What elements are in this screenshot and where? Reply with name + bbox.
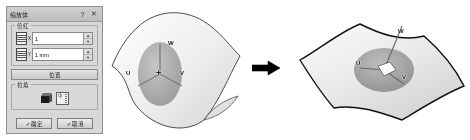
axis-label-v: V <box>180 70 184 76</box>
cancel-button-label: 取消 <box>72 120 84 128</box>
axis-label-u: U <box>356 60 360 66</box>
right-arrow-icon <box>252 60 282 80</box>
screenshot-root: 缩放体 ? ✕ 倍红 X 1 ▲ ▼ <box>0 0 470 140</box>
wavy-surface-before: W U V + <box>108 4 248 136</box>
origin-crosshair-icon: + <box>156 68 161 78</box>
scale-field-sub-y: Y <box>28 52 31 57</box>
cube-icon[interactable] <box>41 93 53 104</box>
ok-check-icon: ✔ <box>26 121 30 127</box>
scale-stepper-buttons-x[interactable]: ▲ ▼ <box>83 33 92 44</box>
scale-stepper-buttons-y[interactable]: ▲ ▼ <box>83 49 92 60</box>
scale-field-row-y: Y 1 mm ▲ ▼ <box>16 48 93 61</box>
scale-stepper-x[interactable]: 1 ▲ ▼ <box>32 32 93 45</box>
grid-icon[interactable]: 中 <box>56 92 69 105</box>
scale-field-row-x: X 1 ▲ ▼ <box>16 32 93 45</box>
cancel-button[interactable]: ✔ 取消 <box>57 118 93 129</box>
cancel-check-icon: ✔ <box>67 121 71 127</box>
stepper-down-icon[interactable]: ▼ <box>84 39 92 44</box>
layers-icon <box>16 32 27 45</box>
corner-icon-row: 中 <box>16 91 93 105</box>
stepper-down-icon[interactable]: ▼ <box>84 55 92 60</box>
wavy-surface-after: W U V <box>298 8 466 134</box>
corner-group: 拉角 中 <box>11 84 98 110</box>
dialog-button-row: ✔ 确定 ✔ 取消 <box>7 116 102 133</box>
surface-after-svg <box>298 8 466 134</box>
dialog-titlebar[interactable]: 缩放体 ? ✕ <box>7 7 102 22</box>
corner-group-legend: 拉角 <box>15 81 31 89</box>
grid-icon-glyph: 中 <box>58 94 62 99</box>
scale-input-x[interactable]: 1 <box>33 33 83 44</box>
scale-stepper-y[interactable]: 1 mm ▲ ▼ <box>32 48 93 61</box>
scale-group-legend: 倍红 <box>15 22 31 30</box>
axis-label-v: V <box>402 74 406 80</box>
scale-body-dialog: 缩放体 ? ✕ 倍红 X 1 ▲ ▼ <box>6 6 103 134</box>
scale-group: 倍红 X 1 ▲ ▼ Y 1 mm <box>11 25 98 66</box>
axis-label-w: W <box>398 28 404 34</box>
layers-icon <box>16 48 27 61</box>
ok-button-label: 确定 <box>31 120 43 128</box>
axis-label-w: W <box>168 40 174 46</box>
dialog-title: 缩放体 <box>10 10 77 19</box>
dialog-body: 倍红 X 1 ▲ ▼ Y 1 mm <box>7 22 102 116</box>
scale-field-sub-x: X <box>28 36 31 41</box>
axis-label-u: U <box>126 70 130 76</box>
ok-button[interactable]: ✔ 确定 <box>16 118 52 129</box>
close-icon[interactable]: ✕ <box>88 9 99 20</box>
help-button[interactable]: ? <box>77 9 88 20</box>
scale-input-y[interactable]: 1 mm <box>33 49 83 60</box>
position-button[interactable]: 位置 <box>11 69 98 80</box>
